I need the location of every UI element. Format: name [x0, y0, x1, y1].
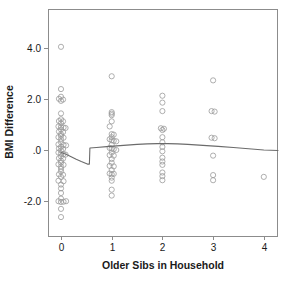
- figure-background: [0, 0, 286, 281]
- chart-figure: 01234 4.02.0.0-2.0 Older Sibs in Househo…: [0, 0, 286, 281]
- x-tick-label: 3: [211, 242, 217, 253]
- x-tick-label: 0: [59, 242, 65, 253]
- y-tick-label: 2.0: [27, 94, 41, 105]
- y-tick-label: -2.0: [24, 196, 42, 207]
- x-tick-label: 4: [262, 242, 268, 253]
- y-tick-label: .0: [33, 145, 42, 156]
- y-axis-title: BMI Difference: [3, 85, 15, 159]
- x-tick-label: 2: [160, 242, 166, 253]
- x-tick-label: 1: [110, 242, 116, 253]
- y-tick-label: 4.0: [27, 43, 41, 54]
- x-axis-title: Older Sibs in Household: [102, 259, 224, 271]
- scatter-plot: 01234 4.02.0.0-2.0 Older Sibs in Househo…: [0, 0, 286, 281]
